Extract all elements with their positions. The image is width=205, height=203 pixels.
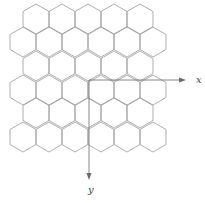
y-axis-arrowhead-icon	[87, 173, 92, 180]
hexagon-cell	[49, 51, 75, 81]
hexagon-cell	[23, 51, 49, 81]
hexagon-grid	[10, 4, 166, 152]
hexagon-cell	[36, 122, 62, 152]
hexagon-cell	[140, 122, 166, 152]
hexagon-cell	[75, 51, 101, 81]
hexagon-cell	[62, 122, 88, 152]
x-axis-arrowhead-icon	[179, 78, 186, 83]
hexagonal-lattice-diagram: x y	[0, 0, 205, 203]
hexagon-cell	[10, 122, 36, 152]
y-axis-label: y	[87, 184, 94, 195]
x-axis-label: x	[196, 74, 202, 85]
hexagon-cell	[127, 51, 153, 81]
coordinate-axes: x y	[87, 74, 203, 195]
hexagon-cell	[101, 51, 127, 81]
hexagon-cell	[114, 122, 140, 152]
hexagon-cell	[88, 122, 114, 152]
